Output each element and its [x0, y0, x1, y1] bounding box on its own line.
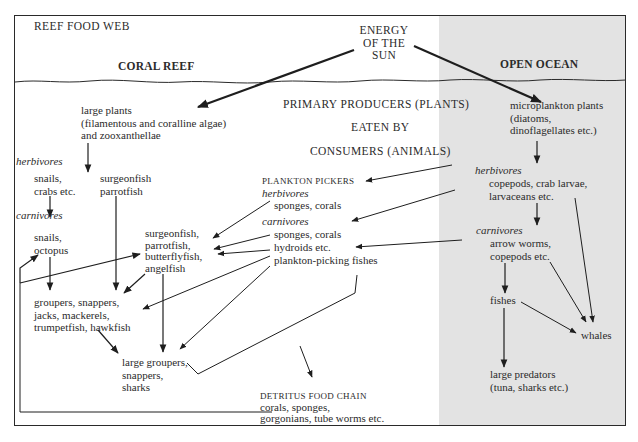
- node-detritus-feeders: corals, sponges, gorgonians, tube worms …: [260, 402, 384, 424]
- node-pickers-carnivores: sponges, corals hydroids etc. plankton-p…: [274, 228, 378, 267]
- label-carnivores-ocean: carnivores: [476, 224, 523, 237]
- node-groupers-snappers: groupers, snappers, jacks, mackerels, tr…: [34, 296, 131, 334]
- node-fishes: fishes: [490, 294, 516, 307]
- node-arrow-worms: arrow worms, copepods etc.: [490, 237, 551, 262]
- node-copepods-larvae: copepods, crab larvae, larvaceans etc.: [489, 177, 587, 202]
- label-carnivores-reef: carnivores: [16, 209, 63, 222]
- node-surgeon-parrot: surgeonfish parrotfish: [100, 172, 151, 197]
- node-snails-crabs: snails, crabs etc.: [34, 172, 76, 197]
- legend-primary-producers: PRIMARY PRODUCERS (PLANTS): [283, 98, 469, 111]
- node-whales: whales: [581, 329, 612, 342]
- label-herbivores-reef: herbivores: [16, 155, 63, 168]
- node-large-predators: large predators (tuna, sharks etc.): [490, 368, 568, 393]
- node-microplankton: microplankton plants (diatoms, dinoflage…: [510, 99, 603, 137]
- label-herbivores-pickers: herbivores: [262, 187, 309, 200]
- legend-eaten-by: EATEN BY: [351, 121, 409, 134]
- node-pickers-herbivores: sponges, corals: [274, 199, 341, 212]
- sun-label: ENERGY OF THE SUN: [346, 24, 422, 62]
- node-large-plants: large plants (filamentous and coralline …: [81, 104, 226, 142]
- node-large-groupers: large groupers, snappers, sharks: [122, 356, 188, 394]
- legend-consumers: CONSUMERS (ANIMALS): [310, 145, 451, 158]
- diagram-title: REEF FOOD WEB: [34, 20, 130, 33]
- label-carnivores-pickers: carnivores: [262, 215, 309, 228]
- water-surface-line: [15, 79, 626, 83]
- label-herbivores-ocean: herbivores: [475, 164, 522, 177]
- coral-reef-heading: CORAL REEF: [118, 60, 194, 73]
- node-reef-fish-group: surgeonfish, parrotfish, butterflyfish, …: [145, 228, 202, 274]
- open-ocean-heading: OPEN OCEAN: [500, 58, 578, 71]
- plankton-pickers-heading: PLANKTON PICKERS: [262, 175, 354, 188]
- node-snails-octopus: snails, octopus: [34, 231, 68, 256]
